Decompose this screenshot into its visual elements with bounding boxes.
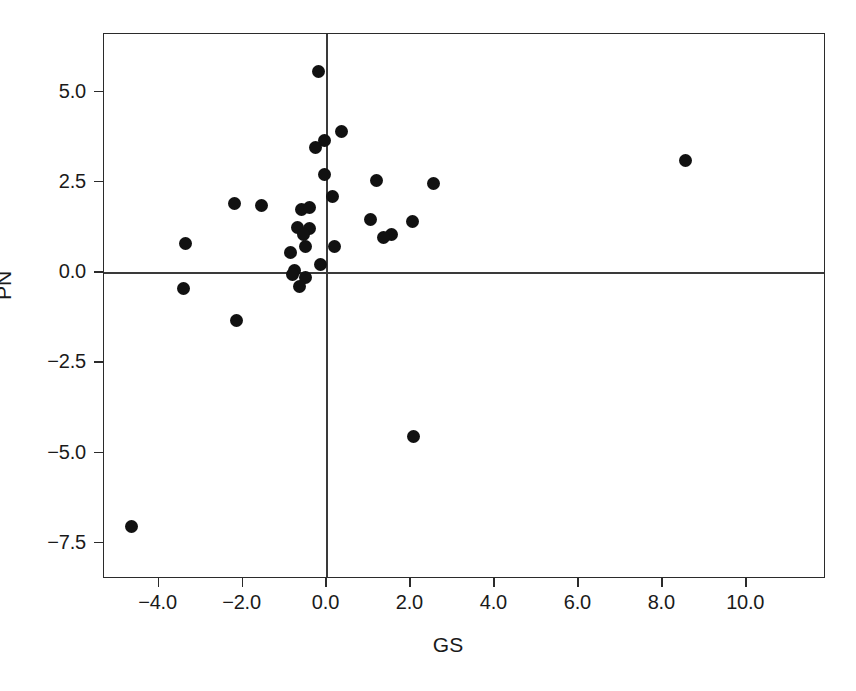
data-point <box>328 240 341 253</box>
x-axis-tick-label: 8.0 <box>648 591 675 614</box>
data-point <box>427 177 440 190</box>
y-axis-tick-label: −5.0 <box>47 440 86 463</box>
data-point <box>370 174 383 187</box>
y-axis-tick <box>94 452 103 453</box>
data-point <box>312 65 325 78</box>
y-axis-label: PN <box>0 271 16 300</box>
data-point <box>179 237 192 250</box>
y-axis-tick-label: −7.5 <box>47 530 86 553</box>
x-axis-tick <box>745 578 746 587</box>
x-axis-tick <box>493 578 494 587</box>
x-axis-label: GS <box>0 633 856 657</box>
data-point <box>318 168 331 181</box>
data-point <box>377 231 390 244</box>
x-axis-tick-label: −2.0 <box>222 591 261 614</box>
x-axis-tick-label: 6.0 <box>564 591 591 614</box>
data-point <box>177 282 190 295</box>
y-axis-tick <box>94 271 103 272</box>
data-point <box>284 246 297 259</box>
scatter-plot-figure: PN GS −4.0−2.00.02.04.06.08.010.05.02.50… <box>0 0 856 691</box>
y-axis-tick-label: 5.0 <box>59 79 86 102</box>
y-axis-tick <box>94 181 103 182</box>
x-axis-tick <box>158 578 159 587</box>
y-axis-tick-label: 0.0 <box>59 260 86 283</box>
data-point <box>326 190 339 203</box>
x-axis-tick-label: 4.0 <box>480 591 507 614</box>
x-axis-tick <box>325 578 326 587</box>
x-axis-tick <box>661 578 662 587</box>
x-axis-tick <box>577 578 578 587</box>
x-axis-tick-label: 0.0 <box>312 591 339 614</box>
x-axis-tick <box>409 578 410 587</box>
data-point <box>255 199 268 212</box>
y-axis-tick-label: 2.5 <box>59 169 86 192</box>
x-axis-tick-label: 2.0 <box>396 591 423 614</box>
data-point <box>364 213 377 226</box>
x-axis-tick <box>242 578 243 587</box>
data-points-layer <box>104 34 824 577</box>
x-axis-tick-label: 10.0 <box>726 591 764 614</box>
y-axis-tick <box>94 361 103 362</box>
data-point <box>293 280 306 293</box>
y-axis-tick-label: −2.5 <box>47 350 86 373</box>
data-point <box>297 228 310 241</box>
data-point <box>679 154 692 167</box>
data-point <box>230 314 243 327</box>
data-point <box>125 520 138 533</box>
data-point <box>286 268 299 281</box>
data-point <box>303 201 316 214</box>
y-axis-tick <box>94 91 103 92</box>
data-point <box>406 215 419 228</box>
data-point <box>335 125 348 138</box>
y-axis-tick <box>94 542 103 543</box>
data-point <box>299 240 312 253</box>
x-axis-label-text: GS <box>433 633 463 657</box>
data-point <box>309 141 322 154</box>
data-point <box>314 258 327 271</box>
data-point <box>407 430 420 443</box>
data-point <box>228 197 241 210</box>
x-axis-tick-label: −4.0 <box>138 591 177 614</box>
plot-area <box>103 33 825 578</box>
